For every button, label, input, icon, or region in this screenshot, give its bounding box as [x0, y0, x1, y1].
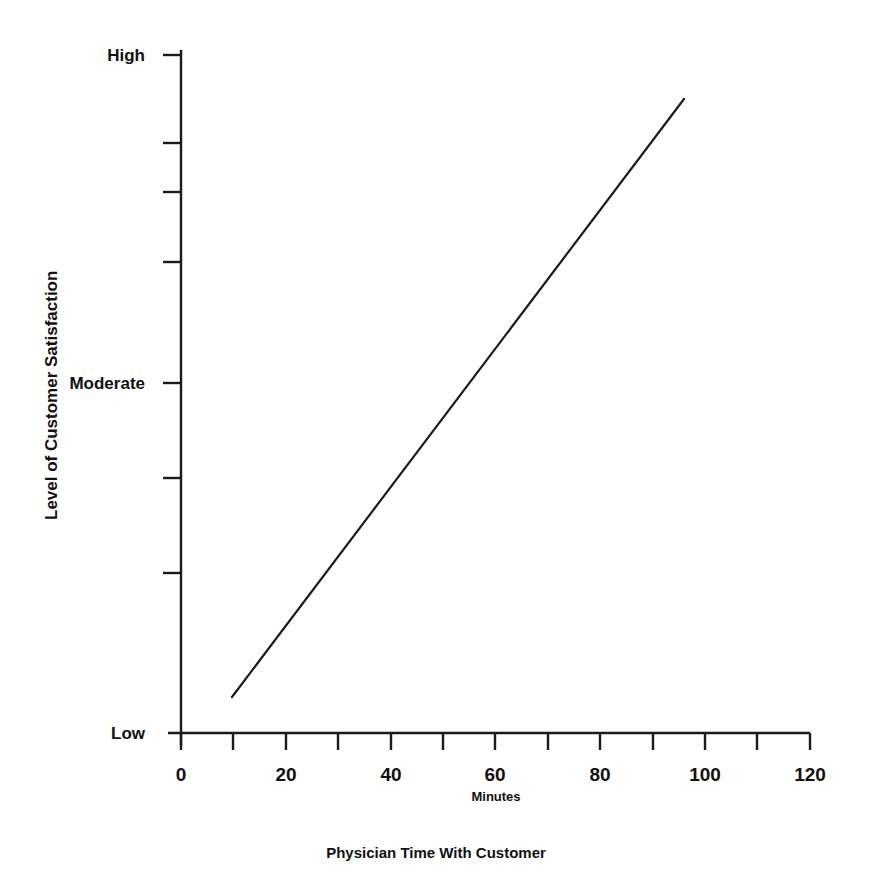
x-tick-label-80: 80	[589, 765, 610, 784]
data-series-line	[232, 99, 684, 697]
x-tick-label-0: 0	[176, 765, 187, 784]
chart-plot-area	[0, 0, 871, 878]
y-tick-label-high: High	[40, 47, 145, 64]
x-axis-ticks	[181, 733, 810, 750]
x-axis-title: Minutes	[471, 790, 520, 803]
x-tick-label-60: 60	[484, 765, 505, 784]
x-tick-label-40: 40	[380, 765, 401, 784]
y-tick-label-moderate: Moderate	[20, 375, 145, 392]
figure-caption: Physician Time With Customer	[326, 845, 546, 860]
y-tick-label-low: Low	[40, 725, 145, 742]
chart-figure: High Moderate Low 0 20 40 60 80 100 120 …	[0, 0, 871, 878]
x-tick-label-100: 100	[689, 765, 721, 784]
y-axis-ticks	[163, 55, 181, 573]
x-tick-label-20: 20	[275, 765, 296, 784]
y-axis-title: Level of Customer Satisfaction	[43, 271, 60, 520]
x-tick-label-120: 120	[794, 765, 826, 784]
